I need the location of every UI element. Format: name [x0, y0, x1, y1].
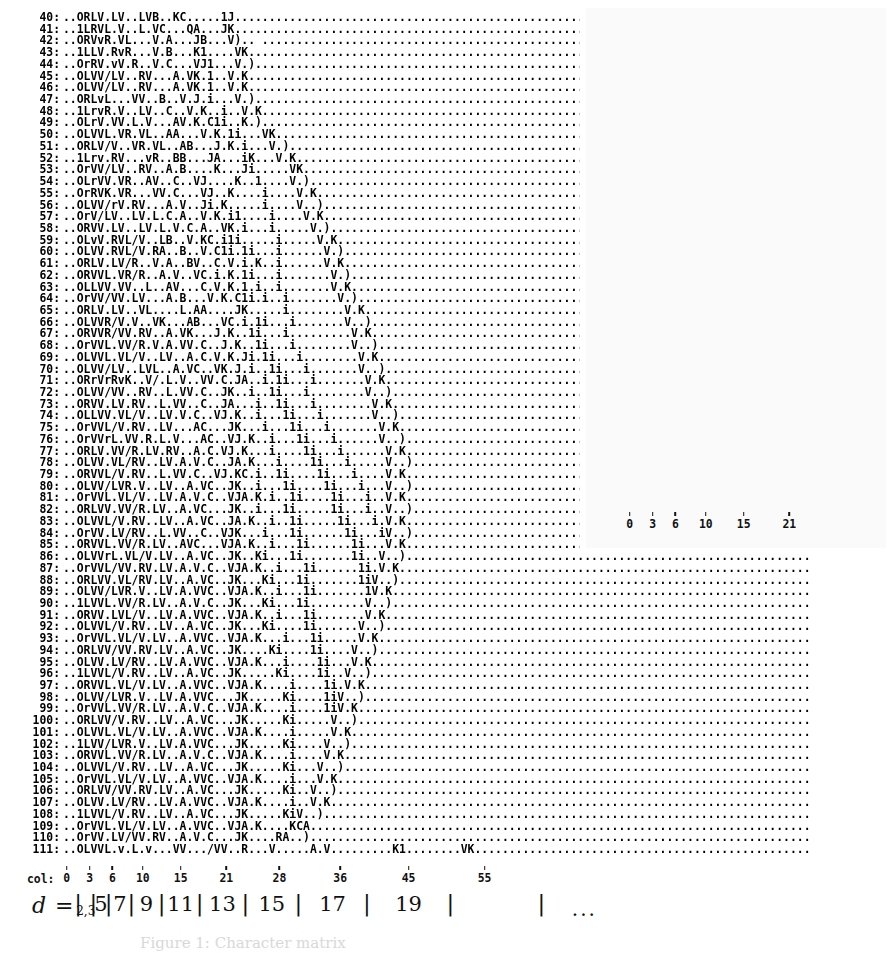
- axis-tick-mark: [705, 512, 707, 516]
- axis-tick-label: 21: [219, 871, 233, 885]
- main-col-axis: 03610152128364555: [63, 866, 663, 888]
- d-scale-value: 17: [319, 894, 346, 915]
- axis-tick-label: 3: [649, 517, 656, 531]
- d-scale-value: 9: [140, 894, 153, 915]
- axis-tick-mark: [279, 866, 281, 870]
- axis-tick-label: 0: [63, 871, 70, 885]
- axis-tick-label: 55: [478, 871, 492, 885]
- matrix-row: ..OLVVL.v.L.v...VV.../VV..R...V.....A.V.…: [63, 844, 811, 856]
- axis-tick-label: 15: [174, 871, 188, 885]
- axis-tick-mark: [112, 866, 114, 870]
- d-scale-divider: |: [158, 892, 166, 915]
- col-axis-label: col:: [27, 872, 54, 886]
- axis-tick-mark: [788, 512, 790, 516]
- d-scale-divider: |: [127, 892, 135, 915]
- d-scale-value: 7: [113, 894, 126, 915]
- row-number: 111:: [24, 844, 60, 856]
- d-axis-label: d =: [32, 893, 75, 918]
- inset-character-matrix-panel: 0: 1: 2: 3: 4: 5: 6: 7: 8: 9:10:11:12:13…: [586, 8, 886, 548]
- d-scale-divider: |: [446, 892, 454, 915]
- axis-tick-label: 0: [626, 517, 633, 531]
- d-scale-divider: |: [363, 892, 371, 915]
- axis-tick-label: 6: [672, 517, 679, 531]
- axis-tick-mark: [142, 866, 144, 870]
- axis-tick-mark: [339, 866, 341, 870]
- d-scale-divider: |: [295, 892, 303, 915]
- d-scale-divider: |: [538, 892, 546, 915]
- axis-tick-mark: [675, 512, 677, 516]
- d-scale-value: 5: [94, 894, 107, 915]
- d-scale-value: 19: [395, 894, 422, 915]
- axis-tick-label: 15: [737, 517, 751, 531]
- axis-tick-label: 45: [402, 871, 416, 885]
- axis-tick-label: 6: [109, 871, 116, 885]
- d-scale-divider: |: [196, 892, 204, 915]
- axis-tick-label: 10: [699, 517, 713, 531]
- axis-tick-label: 28: [273, 871, 287, 885]
- d-scale-value: 13: [209, 894, 236, 915]
- main-row-number-gutter: 40: 41: 42: 43: 44: 45: 46: 47: 48: 49: …: [24, 12, 60, 856]
- axis-tick-label: 21: [782, 517, 796, 531]
- axis-tick-mark: [225, 866, 227, 870]
- axis-tick-mark: [652, 512, 654, 516]
- axis-tick-mark: [743, 512, 745, 516]
- d-scale-value: 11: [167, 894, 194, 915]
- inset-col-axis: 036101521: [626, 512, 876, 534]
- axis-tick-label: 10: [136, 871, 150, 885]
- figure-caption: Figure 1: Character matrix: [140, 934, 560, 952]
- axis-tick-mark: [66, 866, 68, 870]
- axis-tick-mark: [89, 866, 91, 870]
- axis-tick-mark: [484, 866, 486, 870]
- d-scale-value: 15: [258, 894, 285, 915]
- d-scale-ellipsis: ...: [572, 897, 597, 921]
- axis-tick-mark: [629, 512, 631, 516]
- axis-tick-label: 36: [333, 871, 347, 885]
- d-scale-value: 2,3: [76, 901, 95, 922]
- axis-tick-mark: [408, 866, 410, 870]
- axis-tick-mark: [180, 866, 182, 870]
- d-scale-axis: d = |||||||||||2,35791113151719...: [0, 893, 894, 923]
- d-scale-divider: |: [241, 892, 249, 915]
- axis-tick-label: 3: [86, 871, 93, 885]
